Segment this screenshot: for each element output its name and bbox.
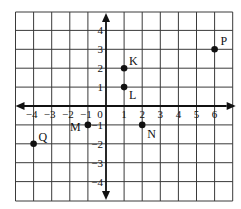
- point-label-p: P: [221, 34, 228, 48]
- axes: [16, 13, 236, 200]
- point-p: [211, 46, 218, 53]
- x-tick-label: −4: [26, 108, 38, 120]
- point-l: [121, 84, 128, 91]
- x-tick-label: 3: [158, 108, 164, 120]
- y-tick-label: 1: [98, 81, 104, 93]
- x-tick-label: −1: [80, 108, 92, 120]
- origin-label: 0: [97, 108, 103, 120]
- y-tick-label: −4: [91, 176, 103, 188]
- coordinate-grid: −4−3−2−11234564321−1−2−3−40 KLPMNQ: [0, 0, 241, 209]
- y-tick-label: −2: [91, 138, 103, 150]
- x-tick-label: 4: [176, 108, 182, 120]
- x-tick-label: 1: [121, 108, 127, 120]
- plotted-points: KLPMNQ: [30, 34, 227, 147]
- point-m: [85, 122, 92, 129]
- x-tick-label: 2: [139, 108, 145, 120]
- point-label-m: M: [70, 120, 81, 134]
- point-label-q: Q: [39, 130, 48, 144]
- y-axis-down-arrow-icon: [102, 191, 110, 200]
- x-axis-left-arrow-icon: [16, 102, 25, 110]
- y-tick-label: −3: [91, 157, 103, 169]
- point-label-n: N: [147, 127, 156, 141]
- point-k: [121, 65, 128, 72]
- x-tick-label: 5: [194, 108, 200, 120]
- x-tick-label: −3: [44, 108, 56, 120]
- x-axis-right-arrow-icon: [227, 102, 236, 110]
- point-label-k: K: [129, 54, 138, 68]
- x-tick-label: 6: [212, 108, 218, 120]
- y-tick-label: 2: [98, 62, 104, 74]
- point-label-l: L: [129, 88, 136, 102]
- y-tick-label: 4: [98, 24, 104, 36]
- y-tick-label: −1: [91, 119, 103, 131]
- x-tick-label: −2: [62, 108, 74, 120]
- y-tick-label: 3: [98, 43, 104, 55]
- point-n: [139, 122, 146, 129]
- y-axis-up-arrow-icon: [102, 13, 110, 22]
- point-q: [30, 141, 37, 148]
